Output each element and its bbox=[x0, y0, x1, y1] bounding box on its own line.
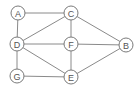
node-label: E bbox=[68, 73, 74, 83]
edge-c-d bbox=[17, 13, 71, 44]
node-c: C bbox=[64, 6, 78, 20]
edge-e-b bbox=[71, 45, 126, 77]
edge-c-b bbox=[71, 13, 126, 45]
edge-f-b bbox=[71, 44, 126, 45]
node-g: G bbox=[10, 69, 24, 83]
node-label: B bbox=[123, 41, 129, 51]
node-b: B bbox=[119, 38, 133, 52]
node-a: A bbox=[11, 6, 25, 20]
node-label: D bbox=[14, 40, 21, 50]
node-label: G bbox=[13, 72, 20, 82]
node-d: D bbox=[10, 37, 24, 51]
edge-g-e bbox=[17, 76, 71, 77]
edge-d-e bbox=[17, 44, 71, 77]
node-e: E bbox=[64, 70, 78, 84]
node-label: F bbox=[68, 40, 74, 50]
node-label: A bbox=[15, 9, 21, 19]
node-label: C bbox=[68, 9, 75, 19]
node-f: F bbox=[64, 37, 78, 51]
graph-diagram: ACDFBGE bbox=[0, 0, 140, 86]
